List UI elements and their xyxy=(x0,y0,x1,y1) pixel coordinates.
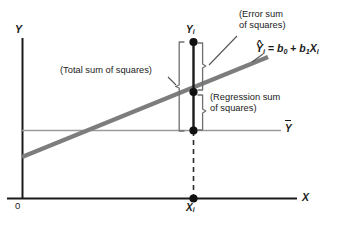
equation-x: X xyxy=(310,42,317,54)
regression-equation-label: ^Yi = b0 + b1Xi xyxy=(256,42,319,56)
hat-glyph: ^ xyxy=(257,37,263,49)
point-label-y-i: Yi xyxy=(186,24,195,37)
point-label-y-bar: Y xyxy=(285,123,292,135)
error-sum-of-squares-label: (Error sum of squares) xyxy=(239,9,286,31)
total-sum-leader-line xyxy=(168,77,176,85)
point-label-x-i: Xi xyxy=(186,202,195,215)
equation-x-subscript: i xyxy=(317,48,319,56)
y-bar-var: Y xyxy=(285,123,292,134)
y-hat-wrap: ^Y xyxy=(256,42,263,54)
point-y-hat-i xyxy=(189,88,197,96)
error-sum-line-1: (Error sum xyxy=(239,9,283,19)
y-axis-label: Y xyxy=(15,23,22,35)
error-sum-line-2: of squares) xyxy=(239,20,286,30)
y-bar-wrap: Y xyxy=(285,123,292,135)
point-y-bar xyxy=(189,126,197,134)
x-i-var: X xyxy=(186,202,193,213)
regression-sum-of-squares-diagram: Y X 0 (Error sum of squares) (Total sum … xyxy=(0,0,342,228)
total-sum-of-squares-label: (Total sum of squares) xyxy=(60,65,152,76)
error-sum-leader-line xyxy=(209,36,237,65)
x-axis-label: X xyxy=(302,191,309,203)
origin-label: 0 xyxy=(15,200,20,211)
x-i-subscript: i xyxy=(193,206,195,213)
diagram-canvas xyxy=(0,0,342,228)
point-y-i xyxy=(189,38,197,46)
y-i-subscript: i xyxy=(193,28,195,35)
regression-sum-bracket xyxy=(198,95,206,130)
regression-sum-line-2: of squares) xyxy=(210,103,257,113)
regression-sum-of-squares-label: (Regression sum of squares) xyxy=(210,92,280,114)
overbar-glyph xyxy=(285,120,291,121)
y-i-var: Y xyxy=(186,24,193,35)
regression-sum-line-1: (Regression sum xyxy=(210,92,280,102)
total-sum-bracket xyxy=(176,42,184,131)
